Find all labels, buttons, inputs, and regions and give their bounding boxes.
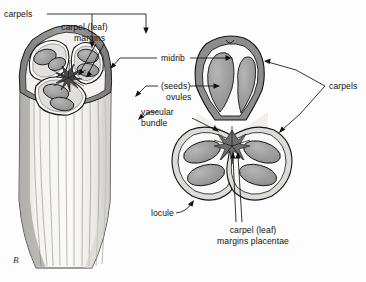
label-locule: locule <box>151 208 174 218</box>
leader-carpels-right-b <box>282 86 325 130</box>
label-placentae-l2: margins placentae <box>217 236 289 246</box>
label-carpel-margins-l2: margins <box>74 33 105 43</box>
label-placentae-l1: carpel (leaf) <box>230 225 277 235</box>
leader-carpels-right-a <box>268 62 325 86</box>
label-carpel-margins-l1: carpel (leaf) <box>61 22 108 32</box>
label-vascular: vascular <box>141 107 174 117</box>
arrowhead <box>264 59 271 64</box>
left-ovary-3d-view <box>19 25 112 268</box>
panel-label: B <box>13 255 19 265</box>
botanical-diagram: carpels carpel (leaf) margins midrib (se… <box>0 0 366 282</box>
label-bundle: bundle <box>141 118 168 128</box>
ovary-stalk <box>19 92 111 268</box>
arrowhead <box>188 200 194 207</box>
leader-midrib-left <box>113 58 157 66</box>
leader-ovules-left <box>138 86 158 94</box>
label-ovules: ovules <box>166 92 191 102</box>
label-seeds: (seeds) <box>161 81 190 91</box>
label-carpels-right: carpels <box>329 81 357 91</box>
right-transverse-section <box>172 36 292 200</box>
label-midrib: midrib <box>161 53 185 63</box>
carpel-upper <box>195 36 264 120</box>
arrowhead <box>143 28 148 35</box>
label-carpels-left: carpels <box>4 9 32 19</box>
